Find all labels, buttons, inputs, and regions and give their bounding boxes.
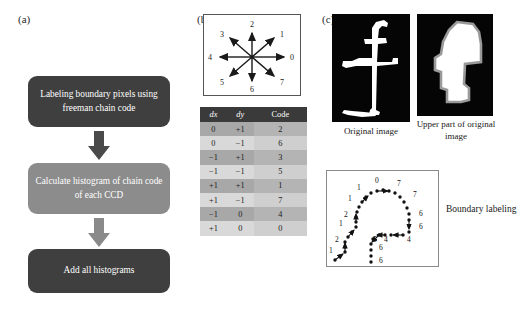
boundary-code-label: 2 [344, 210, 348, 219]
direction-label-7: 7 [280, 78, 284, 87]
direction-label-3: 3 [220, 30, 224, 39]
cell-dy: 0 [227, 207, 254, 221]
table-row: −1−15 [200, 165, 307, 179]
boundary-dots [333, 188, 410, 263]
caption-original-image: Original image [325, 126, 417, 138]
chain-code-direction-diagram: 0 1 2 3 4 5 6 7 [203, 14, 301, 96]
cell-dy: −1 [227, 193, 254, 207]
flow-arrow-down-2 [87, 218, 111, 248]
boundary-code-label: 1 [329, 246, 333, 255]
cell-dx: −1 [200, 165, 227, 179]
cell-dx: 0 [200, 122, 227, 136]
flow-arrow-down-1 [87, 131, 111, 161]
direction-label-5: 5 [220, 78, 224, 87]
direction-label-0: 0 [290, 53, 294, 62]
boundary-labeling-diagram: 0 7 1 7 1 6 2 6 1 5 4 4 2 6 1 6 [326, 170, 439, 267]
direction-label-1: 1 [280, 30, 284, 39]
caption-upper-part: Upper part of original image [412, 119, 500, 142]
boundary-code-label: 2 [335, 235, 339, 244]
upper-part-image-bitmap [417, 14, 493, 116]
table-row: +1+11 [200, 179, 307, 193]
column-header-dx: dx [200, 107, 227, 122]
cell-dy: 0 [227, 221, 254, 235]
cell-code: 4 [254, 207, 307, 221]
boundary-code-label: 7 [413, 190, 417, 199]
boundary-code-label: 6 [419, 209, 423, 218]
cell-dx: 0 [200, 136, 227, 150]
boundary-code-label: 4 [384, 235, 388, 244]
boundary-code-label: 0 [375, 176, 379, 185]
cell-dy: −1 [227, 136, 254, 150]
panel-a-flowchart: (a) Labeling boundary pixels using freem… [0, 0, 195, 315]
cell-code: 3 [254, 150, 307, 164]
column-header-dy: dy [227, 107, 254, 122]
panel-b-chain-code: (b) 0 1 2 3 4 5 [195, 0, 320, 315]
flow-box-labeling-boundary-pixels: Labeling boundary pixels using freeman c… [28, 76, 170, 127]
flow-box-calculate-histogram: Calculate histogram of chain code of eac… [28, 163, 170, 214]
cell-dy: +1 [227, 150, 254, 164]
cell-dy: +1 [227, 179, 254, 193]
direction-origin-dot [250, 55, 254, 59]
boundary-code-label: 1 [348, 194, 352, 203]
table-row: +100 [200, 221, 307, 235]
boundary-code-label: 6 [379, 243, 383, 252]
panel-label-a: (a) [18, 13, 30, 25]
panel-c-images: (c) Original image Upper part of origina… [320, 0, 529, 315]
column-header-code: Code [254, 107, 307, 122]
cell-dx: −1 [200, 150, 227, 164]
table-row: 0−16 [200, 136, 307, 150]
boundary-code-label: 5 [373, 235, 377, 244]
boundary-code-label: 4 [407, 235, 411, 244]
cell-dy: +1 [227, 122, 254, 136]
flow-box-add-all-histograms: Add all histograms [28, 249, 170, 293]
caption-boundary-labeling: Boundary labeling [446, 203, 524, 216]
boundary-code-label: 1 [357, 183, 361, 192]
direction-label-6: 6 [250, 85, 254, 94]
cell-code: 6 [254, 136, 307, 150]
cell-dy: −1 [227, 165, 254, 179]
cell-dx: +1 [200, 179, 227, 193]
cell-code: 1 [254, 179, 307, 193]
direction-label-2: 2 [250, 20, 254, 29]
original-image-bitmap [332, 14, 410, 122]
table-row: +1−17 [200, 193, 307, 207]
table-row: −104 [200, 207, 307, 221]
cell-code: 2 [254, 122, 307, 136]
cell-code: 0 [254, 221, 307, 235]
direction-label-4: 4 [208, 53, 212, 62]
cell-dx: +1 [200, 193, 227, 207]
boundary-code-label: 7 [397, 179, 401, 188]
cell-dx: +1 [200, 221, 227, 235]
table-header-row: dx dy Code [200, 107, 307, 122]
table-row: 0+12 [200, 122, 307, 136]
cell-dx: −1 [200, 207, 227, 221]
table-row: −1+13 [200, 150, 307, 164]
chain-code-table: dx dy Code 0+12 0−16 −1+13 −1−15 +1+11 +… [200, 107, 307, 236]
boundary-code-label: 1 [339, 219, 343, 228]
cell-code: 7 [254, 193, 307, 207]
cell-code: 5 [254, 165, 307, 179]
boundary-code-label: 6 [379, 256, 383, 265]
boundary-code-label: 6 [419, 222, 423, 231]
